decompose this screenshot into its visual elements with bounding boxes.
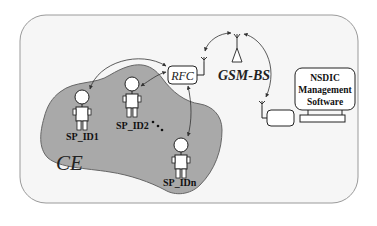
person-body-icon xyxy=(175,155,187,169)
nsdic-label-line3: Software xyxy=(307,97,343,107)
person-body-icon xyxy=(76,107,88,121)
gsm-bs-label: GSM-BS xyxy=(218,68,270,83)
sp-id2-label: SP_ID2 xyxy=(116,120,149,131)
nsdic-label-line2: Management xyxy=(298,85,352,95)
person-head-icon xyxy=(75,90,89,104)
person-head-icon xyxy=(174,138,188,152)
rfc-label: RFC xyxy=(170,69,195,83)
sp-idn-label: SP_IDn xyxy=(163,177,197,188)
person-head-icon xyxy=(125,77,139,91)
nsdic-label-line1: NSDIC xyxy=(310,73,340,83)
modem-box-icon xyxy=(267,110,294,126)
ce-label: CE xyxy=(56,151,83,175)
sp-id1-label: SP_ID1 xyxy=(66,131,99,142)
person-body-icon xyxy=(126,94,138,108)
diagram-canvas: CE SP_ID1 SP_ID2 SP_IDn R xyxy=(0,0,377,226)
nsdic-keyboard-base xyxy=(300,115,345,122)
